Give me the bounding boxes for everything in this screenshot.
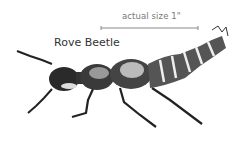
scale-label: actual size 1": [122, 11, 181, 21]
rove-beetle-illustration: actual size 1" Rove Beetle: [0, 0, 236, 149]
illustration-title: Rove Beetle: [54, 36, 120, 49]
beetle-drawing: [0, 0, 236, 149]
